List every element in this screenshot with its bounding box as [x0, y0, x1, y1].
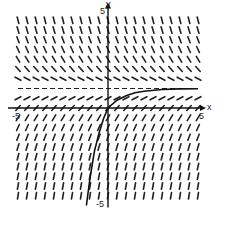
- slope-segment: [26, 163, 27, 169]
- slope-segment: [125, 163, 126, 169]
- slope-segment: [44, 37, 46, 43]
- slope-segment: [78, 97, 84, 100]
- slope-segment: [197, 163, 198, 169]
- slope-segment: [160, 115, 163, 121]
- slope-segment: [62, 134, 64, 140]
- slope-segment: [98, 37, 100, 43]
- slope-segment: [143, 192, 144, 199]
- slope-segment: [134, 144, 136, 150]
- slope-segment: [179, 183, 180, 189]
- slope-segment: [196, 67, 200, 72]
- slope-segment: [69, 77, 75, 80]
- slope-segment: [116, 163, 117, 169]
- slope-segment: [152, 37, 154, 43]
- slope-segment: [42, 77, 48, 80]
- slope-segment: [15, 97, 21, 100]
- slope-segment: [52, 67, 56, 72]
- slope-segment: [178, 56, 181, 62]
- slope-segment: [43, 115, 46, 121]
- slope-segment: [116, 183, 117, 189]
- slope-segment: [188, 173, 189, 179]
- slope-segment: [114, 77, 120, 80]
- slope-segment: [71, 47, 74, 53]
- slope-segment: [71, 192, 72, 199]
- slope-segment: [134, 27, 136, 33]
- slope-segment: [24, 97, 30, 100]
- slope-segment: [35, 47, 38, 53]
- slope-segment: [79, 115, 82, 121]
- slope-segment: [25, 67, 29, 72]
- slope-segment: [35, 17, 37, 23]
- slope-field-plot: [0, 0, 227, 228]
- slope-segment: [152, 192, 153, 199]
- slope-segment: [17, 37, 19, 43]
- slope-segment: [151, 115, 154, 121]
- slope-segment: [143, 134, 145, 140]
- slope-segment: [197, 173, 198, 179]
- slope-segment: [71, 173, 72, 179]
- slope-segment: [187, 115, 190, 121]
- slope-segment: [188, 144, 190, 150]
- slope-segment: [17, 47, 20, 53]
- slope-segment: [53, 154, 55, 160]
- slope-segment: [152, 27, 154, 33]
- slope-segment: [116, 134, 118, 140]
- slope-segment: [125, 173, 126, 179]
- slope-segment: [26, 47, 29, 53]
- slope-segment: [26, 154, 28, 160]
- slope-segment: [197, 27, 199, 33]
- slope-segment: [26, 17, 28, 23]
- slope-segment: [44, 134, 46, 140]
- slope-segment: [61, 67, 65, 72]
- slope-segment: [197, 47, 200, 53]
- slope-segment: [116, 154, 118, 160]
- slope-segment: [53, 173, 54, 179]
- slope-segment: [16, 67, 20, 72]
- slope-segment: [161, 47, 164, 53]
- slope-segment: [17, 163, 18, 169]
- slope-segment: [34, 56, 37, 62]
- slope-segment: [115, 115, 118, 121]
- slope-segment: [15, 77, 21, 80]
- slope-segment: [134, 134, 136, 140]
- slope-segment: [134, 192, 135, 199]
- slope-segment: [79, 56, 82, 62]
- slope-segment: [60, 77, 66, 80]
- slope-segment: [143, 154, 145, 160]
- slope-segment: [179, 173, 180, 179]
- slope-segment: [188, 183, 189, 189]
- slope-segment: [170, 17, 172, 23]
- slope-segment: [197, 37, 199, 43]
- slope-segment: [116, 47, 119, 53]
- slope-segment: [188, 37, 190, 43]
- slope-segment: [179, 125, 182, 131]
- slope-segment: [168, 97, 174, 100]
- slope-segment: [62, 183, 63, 189]
- slope-segment: [17, 125, 20, 131]
- slope-segment: [116, 144, 118, 150]
- slope-segment: [116, 125, 119, 131]
- slope-segment: [17, 183, 18, 189]
- slope-segment: [35, 125, 38, 131]
- slope-segment: [89, 17, 91, 23]
- x-min-tick-label: -5: [12, 112, 20, 121]
- slope-segment: [70, 67, 74, 72]
- slope-segment: [26, 27, 28, 33]
- slope-segment: [70, 56, 73, 62]
- slope-segment: [195, 77, 201, 80]
- slope-segment: [133, 56, 136, 62]
- slope-segment: [35, 192, 36, 199]
- slope-segment: [179, 144, 181, 150]
- slope-segment: [143, 37, 145, 43]
- slope-segment: [125, 37, 127, 43]
- slope-segment: [169, 56, 172, 62]
- slope-segment: [89, 125, 92, 131]
- slope-segment: [98, 173, 99, 179]
- slope-segment: [161, 37, 163, 43]
- slope-segment: [51, 77, 57, 80]
- slope-segment: [141, 97, 147, 100]
- slope-segment: [143, 163, 144, 169]
- slope-segment: [161, 17, 163, 23]
- slope-segment: [71, 17, 73, 23]
- slope-segment: [116, 27, 118, 33]
